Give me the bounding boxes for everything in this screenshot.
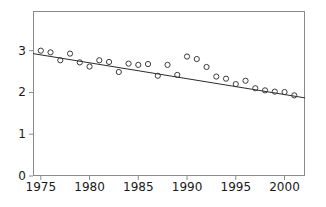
x-tick-label: 1980	[68, 181, 112, 193]
x-tick-label: 1990	[165, 181, 209, 193]
x-tick-label: 1995	[214, 181, 258, 193]
x-tick-label: 1975	[19, 181, 63, 193]
chart-root: 3210 197519801985199019952000	[0, 0, 326, 207]
x-tick-label-group: 197519801985199019952000	[0, 0, 326, 207]
x-tick-label: 2000	[263, 181, 307, 193]
x-tick-label: 1985	[116, 181, 160, 193]
